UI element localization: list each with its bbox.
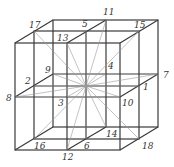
cube-diagram: 123456789101112131415161718 <box>0 0 174 167</box>
point-label-2: 2 <box>24 76 31 86</box>
point-label-3: 3 <box>58 98 64 108</box>
ray-to-point-9 <box>53 74 86 86</box>
point-label-4: 4 <box>107 61 114 71</box>
point-label-8: 8 <box>6 93 12 103</box>
point-label-5: 5 <box>82 19 88 29</box>
ray-to-point-14 <box>86 86 106 127</box>
point-label-1: 1 <box>143 82 149 92</box>
ray-to-point-13 <box>67 43 86 86</box>
point-label-14: 14 <box>106 129 118 139</box>
point-label-7: 7 <box>163 70 169 80</box>
point-label-18: 18 <box>142 141 154 151</box>
point-label-10: 10 <box>122 98 134 108</box>
point-label-12: 12 <box>62 152 74 162</box>
ray-to-point-15 <box>86 31 139 86</box>
point-label-6: 6 <box>84 141 90 151</box>
point-label-9: 9 <box>45 65 51 75</box>
point-label-13: 13 <box>57 33 69 43</box>
point-label-17: 17 <box>29 20 41 30</box>
point-label-16: 16 <box>34 141 46 151</box>
point-label-11: 11 <box>103 7 114 17</box>
ray-to-point-8 <box>15 86 86 97</box>
point-label-15: 15 <box>134 20 146 30</box>
